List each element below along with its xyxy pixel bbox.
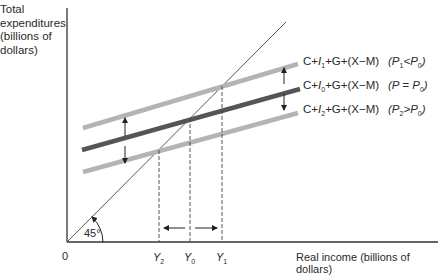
curve-label-middle: C+I0+G+(X−M) bbox=[303, 79, 379, 93]
x-axis-label: Real income (billions of dollars) bbox=[296, 251, 443, 275]
curve-label-lower: C+I2+G+(X−M) bbox=[303, 103, 379, 117]
45-degree-line bbox=[67, 22, 286, 242]
price-condition-middle: (P = P0) bbox=[388, 79, 428, 93]
price-condition-lower: (P2>P0) bbox=[388, 103, 426, 117]
origin-label: 0 bbox=[62, 250, 68, 262]
curve-label-upper: C+I1+G+(X−M) bbox=[303, 55, 379, 69]
tick-y2: Y2 bbox=[153, 251, 164, 265]
price-condition-upper: (P1<P0) bbox=[388, 55, 426, 69]
angle-label: 45° bbox=[84, 227, 101, 239]
tick-y1: Y1 bbox=[216, 251, 227, 265]
tick-y0: Y0 bbox=[184, 251, 195, 265]
